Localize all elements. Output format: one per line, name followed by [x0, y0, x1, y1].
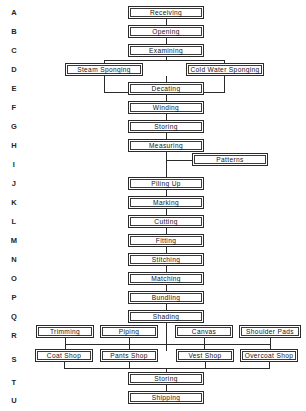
process-node-decating[interactable]: Decating [128, 82, 204, 95]
row-label-d: D [7, 65, 21, 75]
row-label-n: N [7, 255, 21, 265]
row-label-o: O [7, 274, 21, 284]
process-node-measuring[interactable]: Measuring [128, 139, 204, 152]
row-label-u: U [7, 396, 21, 406]
process-node-fitting[interactable]: Fitting [128, 234, 204, 247]
row-label-h: H [7, 141, 21, 151]
row-label-f: F [7, 103, 21, 113]
row-label-l: L [7, 217, 21, 227]
process-node-canvas[interactable]: Canvas [175, 325, 233, 338]
process-node-pants_shop[interactable]: Pants Shop [100, 349, 158, 362]
row-label-e: E [7, 84, 21, 94]
row-label-p: P [7, 293, 21, 303]
process-node-piping[interactable]: Piping [100, 325, 158, 338]
row-label-j: J [7, 179, 21, 189]
process-node-winding[interactable]: Winding [128, 101, 204, 114]
connector-q-down [166, 323, 167, 351]
process-node-patterns[interactable]: Patterns [192, 153, 268, 166]
row-label-a: A [7, 8, 21, 18]
row-label-b: B [7, 27, 21, 37]
process-node-storing_t[interactable]: Storing [128, 372, 204, 385]
process-node-marking[interactable]: Marking [128, 196, 204, 209]
connector-s-bus [64, 368, 270, 369]
process-node-bundling[interactable]: Bundling [128, 291, 204, 304]
process-node-cold_water_sponging[interactable]: Cold Water Sponging [186, 63, 264, 76]
process-node-stitching[interactable]: Stitching [128, 253, 204, 266]
process-node-shipping[interactable]: Shipping [128, 391, 204, 404]
connector-d-left-under [104, 76, 105, 92]
process-node-storing_g[interactable]: Storing [128, 120, 204, 133]
process-node-matching[interactable]: Matching [128, 272, 204, 285]
row-label-c: C [7, 46, 21, 56]
process-node-shoulder_pads[interactable]: Shoulder Pads [239, 325, 301, 338]
process-node-shading[interactable]: Shading [128, 310, 204, 323]
row-label-s: S [7, 355, 21, 365]
connector-r-bus [65, 344, 271, 345]
connector-d-bus-top [104, 60, 225, 61]
row-label-q: Q [7, 312, 21, 322]
row-label-r: R [7, 331, 21, 341]
process-node-steam_sponging[interactable]: Steam Sponging [65, 63, 143, 76]
process-node-overcoat_shop[interactable]: Overcoat Shop [240, 349, 298, 362]
process-node-piling_up[interactable]: Piling Up [128, 177, 204, 190]
process-node-coat_shop[interactable]: Coat Shop [35, 349, 93, 362]
process-node-examining[interactable]: Examining [128, 44, 204, 57]
row-label-g: G [7, 122, 21, 132]
process-node-opening[interactable]: Opening [128, 25, 204, 38]
connector-i-j [166, 160, 167, 177]
row-label-k: K [7, 198, 21, 208]
connector-d-right-under [224, 76, 225, 92]
connector-i-patterns [166, 160, 193, 161]
row-label-t: T [7, 378, 21, 388]
process-node-vest_shop[interactable]: Vest Shop [176, 349, 234, 362]
process-node-receiving[interactable]: Receiving [128, 6, 204, 19]
process-node-cutting[interactable]: Cutting [128, 215, 204, 228]
row-label-m: M [7, 236, 21, 246]
flowchart-canvas: ABCDEFGHIJKLMNOPQRSTU ReceivingOpeningEx… [0, 0, 306, 411]
row-label-i: I [7, 160, 21, 170]
process-node-trimming[interactable]: Trimming [36, 325, 94, 338]
connector-h-i [166, 152, 167, 160]
